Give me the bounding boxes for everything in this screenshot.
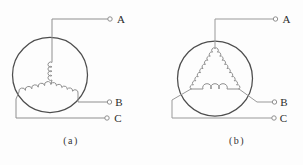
delta-bottom-side-coil — [191, 84, 239, 89]
caption-b: (b) — [229, 136, 245, 146]
delta-connection-diagram — [172, 17, 278, 120]
terminal-label-c-left: C — [114, 113, 121, 124]
terminal-a-icon-left — [108, 17, 112, 21]
terminal-c-icon-left — [105, 116, 109, 120]
winding-connection-figure: A B C A B C (a) (b) — [0, 0, 303, 165]
terminal-label-b-left: B — [115, 97, 122, 108]
terminal-label-c-right: C — [280, 113, 287, 124]
caption-a: (a) — [63, 136, 79, 146]
star-connection-diagram — [13, 17, 113, 120]
terminal-b-icon-left — [107, 100, 111, 104]
terminal-label-a-right: A — [283, 14, 291, 25]
star-phase-a-coil-and-lead — [48, 19, 108, 84]
stator-circle-right — [178, 41, 253, 116]
figure-graphics — [0, 0, 303, 165]
star-phase-c-coil-and-lead — [16, 82, 105, 118]
terminal-label-a-left: A — [117, 14, 125, 25]
delta-lead-a — [215, 19, 273, 48]
terminal-label-b-right: B — [280, 97, 287, 108]
terminal-c-icon-right — [272, 116, 276, 120]
delta-right-side-coil — [215, 48, 240, 89]
terminal-a-icon-right — [273, 17, 277, 21]
delta-lead-b — [239, 89, 272, 102]
delta-left-side-coil — [190, 48, 215, 89]
terminal-b-icon-right — [272, 100, 276, 104]
